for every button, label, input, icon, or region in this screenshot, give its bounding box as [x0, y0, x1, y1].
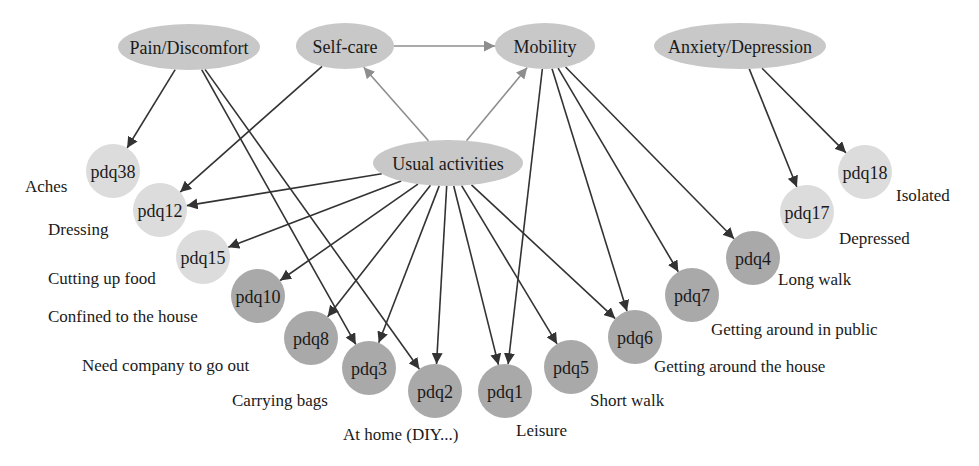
edge-mobility-to-pdq4: [566, 67, 735, 239]
dimension-node-usual[interactable]: Usual activities: [373, 140, 523, 186]
item-description-pdq1: Leisure: [516, 421, 567, 440]
dimension-label: Self-care: [313, 37, 378, 57]
item-label: pdq18: [843, 163, 888, 183]
item-label: pdq10: [236, 287, 281, 307]
edge-mobility-to-pdq6: [552, 69, 627, 311]
item-node-pdq12[interactable]: pdq12: [133, 183, 187, 237]
item-description-pdq5: Short walk: [590, 391, 665, 410]
item-label: pdq6: [617, 328, 653, 348]
item-description-pdq17: Depressed: [839, 229, 910, 248]
dimension-node-selfcare[interactable]: Self-care: [296, 23, 394, 69]
edge-usual-to-pdq5: [462, 186, 557, 344]
edge-usual-to-pdq1: [454, 186, 499, 365]
item-label: pdq7: [674, 286, 710, 306]
edge-pain-to-pdq38: [127, 70, 175, 148]
item-label: pdq12: [138, 201, 183, 221]
dimension-node-mobility[interactable]: Mobility: [495, 23, 595, 69]
item-description-pdq2: At home (DIY...): [343, 425, 458, 444]
item-description-pdq38: Aches: [25, 177, 67, 196]
item-node-pdq4[interactable]: pdq4: [726, 231, 780, 285]
edge-usual-to-pdq8: [328, 185, 431, 316]
edge-usual-to-pdq10: [280, 184, 418, 280]
item-node-pdq10[interactable]: pdq10: [231, 269, 285, 323]
edge-mobility-to-pdq1: [508, 69, 542, 364]
bayesian-network-diagram: Pain/DiscomfortSelf-careMobilityAnxiety/…: [0, 0, 979, 466]
dimension-label: Usual activities: [392, 154, 503, 174]
edge-usual-to-pdq3: [379, 186, 439, 343]
item-description-pdq6: Getting around the house: [654, 357, 825, 376]
item-label: pdq2: [417, 382, 453, 402]
edge-usual-to-mobility: [466, 67, 527, 140]
dimension-label: Anxiety/Depression: [668, 37, 812, 57]
item-description-pdq3: Carrying bags: [232, 391, 328, 410]
item-description-pdq7: Getting around in public: [711, 320, 878, 339]
item-node-pdq1[interactable]: pdq1: [478, 364, 532, 418]
item-label: pdq4: [735, 249, 771, 269]
item-node-pdq18[interactable]: pdq18: [838, 145, 892, 199]
item-description-pdq4: Long walk: [778, 270, 852, 289]
item-label: pdq1: [487, 382, 523, 402]
item-description-pdq18: Isolated: [896, 186, 950, 205]
item-description-pdq12: Dressing: [48, 220, 109, 239]
edge-usual-to-selfcare: [364, 67, 429, 141]
item-label: pdq8: [293, 329, 329, 349]
edge-mobility-to-pdq7: [558, 68, 678, 272]
edge-usual-to-pdq2: [437, 186, 447, 364]
edge-selfcare-to-pdq12: [180, 66, 322, 192]
edge-anxiety-to-pdq18: [762, 68, 846, 153]
item-node-pdq8[interactable]: pdq8: [284, 311, 338, 365]
item-node-pdq3[interactable]: pdq3: [342, 341, 396, 395]
item-description-pdq8: Need company to go out: [82, 356, 249, 375]
item-label: pdq5: [553, 358, 589, 378]
item-description-pdq15: Cutting up food: [48, 269, 156, 288]
item-node-pdq38[interactable]: pdq38: [86, 144, 140, 198]
dimension-node-anxiety[interactable]: Anxiety/Depression: [654, 23, 826, 69]
edge-anxiety-to-pdq17: [749, 69, 797, 187]
dimension-label: Pain/Discomfort: [130, 38, 249, 58]
item-node-pdq7[interactable]: pdq7: [665, 268, 719, 322]
item-node-pdq2[interactable]: pdq2: [408, 364, 462, 418]
dimension-label: Mobility: [513, 37, 576, 57]
item-label: pdq15: [181, 248, 226, 268]
item-node-pdq17[interactable]: pdq17: [780, 185, 834, 239]
item-node-pdq15[interactable]: pdq15: [176, 230, 230, 284]
item-description-pdq10: Confined to the house: [48, 307, 198, 326]
item-label: pdq17: [785, 203, 830, 223]
edge-usual-to-pdq12: [187, 174, 382, 206]
item-node-pdq5[interactable]: pdq5: [544, 340, 598, 394]
item-label: pdq38: [91, 162, 136, 182]
dimension-node-pain[interactable]: Pain/Discomfort: [118, 24, 260, 70]
item-label: pdq3: [351, 359, 387, 379]
